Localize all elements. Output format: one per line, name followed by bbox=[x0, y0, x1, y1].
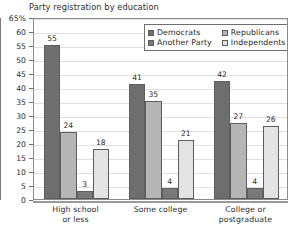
bar-slot: 3 bbox=[77, 18, 93, 199]
bar-slot: 24 bbox=[60, 18, 76, 199]
bar[interactable] bbox=[145, 101, 161, 199]
x-axis-label-line: College or bbox=[203, 205, 288, 215]
bar-value-label: 4 bbox=[252, 177, 257, 186]
bar[interactable] bbox=[247, 188, 263, 199]
y-tick-label: 50 bbox=[16, 56, 26, 65]
legend-item-republicans[interactable]: Republicans bbox=[222, 28, 286, 37]
bar[interactable] bbox=[214, 81, 230, 199]
plot-area: 552431841354214227426 DemocratsRepublica… bbox=[33, 18, 288, 200]
y-axis: 65%605550454035302520151050 bbox=[0, 18, 33, 200]
bar[interactable] bbox=[44, 45, 60, 199]
y-tick-label: 20 bbox=[16, 140, 26, 149]
y-tick-label: 30 bbox=[16, 112, 26, 121]
bar[interactable] bbox=[93, 149, 109, 199]
y-tick-label: 65% bbox=[9, 14, 26, 23]
y-tick-label: 35 bbox=[16, 98, 26, 107]
y-tick-label: 0 bbox=[21, 196, 26, 205]
y-tick-label: 15 bbox=[16, 154, 26, 163]
legend-swatch-icon bbox=[222, 30, 228, 36]
bar-value-label: 41 bbox=[132, 73, 142, 82]
bar[interactable] bbox=[263, 126, 279, 199]
y-tick-label: 40 bbox=[16, 84, 26, 93]
x-axis-label-line: postgraduate bbox=[203, 215, 288, 225]
legend-label: Democrats bbox=[157, 28, 200, 37]
legend-swatch-icon bbox=[148, 30, 154, 36]
x-axis-category-label: College orpostgraduate bbox=[203, 205, 288, 225]
bar-value-label: 3 bbox=[82, 180, 87, 189]
bar-value-label: 18 bbox=[96, 138, 106, 147]
bar-value-label: 27 bbox=[233, 112, 243, 121]
legend-swatch-icon bbox=[148, 40, 154, 46]
legend-label: Republicans bbox=[231, 28, 279, 37]
bar-value-label: 26 bbox=[266, 115, 276, 124]
y-tick-label: 55 bbox=[16, 42, 26, 51]
x-axis-label-line: Some college bbox=[118, 205, 203, 215]
legend-label: Another Party bbox=[157, 38, 212, 47]
x-axis-label-line: High school bbox=[33, 205, 118, 215]
bar[interactable] bbox=[230, 123, 246, 199]
x-axis-line bbox=[33, 201, 288, 203]
bar-slot: 55 bbox=[44, 18, 60, 199]
y-tick-label: 45 bbox=[16, 70, 26, 79]
bar-slot: 18 bbox=[93, 18, 109, 199]
chart-title: Party registration by education bbox=[29, 2, 159, 12]
chart-legend: DemocratsRepublicansAnother PartyIndepen… bbox=[144, 24, 288, 51]
bar-value-label: 21 bbox=[181, 129, 191, 138]
y-tick-label: 60 bbox=[16, 28, 26, 37]
bar-chart: Party registration by education 65%60555… bbox=[0, 0, 293, 232]
bar-value-label: 35 bbox=[148, 90, 158, 99]
bar-value-label: 55 bbox=[47, 34, 57, 43]
y-tick-label: 5 bbox=[21, 182, 26, 191]
x-axis-category-label: High schoolor less bbox=[33, 205, 118, 225]
bar-value-label: 42 bbox=[217, 70, 227, 79]
bar[interactable] bbox=[60, 132, 76, 199]
bar[interactable] bbox=[178, 140, 194, 199]
bar-slot: 41 bbox=[129, 18, 145, 199]
bar[interactable] bbox=[129, 84, 145, 199]
bar-value-label: 24 bbox=[63, 121, 73, 130]
x-axis-category-label: Some college bbox=[118, 205, 203, 215]
y-tick-label: 10 bbox=[16, 168, 26, 177]
bar-value-label: 4 bbox=[167, 177, 172, 186]
bar-group: 5524318 bbox=[34, 19, 119, 199]
bar[interactable] bbox=[162, 188, 178, 199]
x-axis-labels: High schoolor lessSome collegeCollege or… bbox=[33, 205, 288, 232]
bar[interactable] bbox=[77, 191, 93, 199]
x-axis-label-line: or less bbox=[33, 215, 118, 225]
legend-item-democrats[interactable]: Democrats bbox=[148, 28, 212, 37]
legend-swatch-icon bbox=[222, 40, 228, 46]
y-tick-label: 25 bbox=[16, 126, 26, 135]
legend-item-independents[interactable]: Independents bbox=[222, 38, 286, 47]
legend-label: Independents bbox=[231, 38, 286, 47]
legend-item-another-party[interactable]: Another Party bbox=[148, 38, 212, 47]
